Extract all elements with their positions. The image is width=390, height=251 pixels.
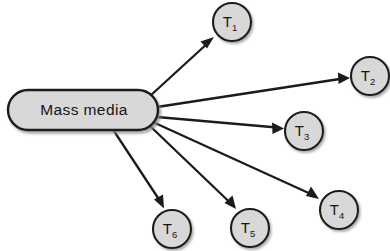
t2-label-base: T [361,67,370,84]
diagram-canvas: Mass media T1 T2 T3 T4 T5 [0,0,390,251]
target-node-group: T1 T2 T3 T4 T5 T6 [153,3,389,248]
edge-line-t6 [112,128,161,203]
arrowhead-t2 [338,73,350,85]
edge-line-t5 [150,126,232,204]
node-t6[interactable]: T6 [153,210,191,248]
node-t5[interactable]: T5 [231,209,269,247]
t1-label-subscript: 1 [232,22,237,33]
edge-mass-media-to-t2 [157,73,350,108]
t6-label-base: T [163,220,172,237]
edge-line-t1 [150,42,209,96]
mass-media-label: Mass media [40,101,128,118]
node-t3[interactable]: T3 [285,112,323,150]
edge-mass-media-to-t1 [150,37,214,96]
node-t4[interactable]: T4 [320,191,358,229]
t3-label-base: T [295,122,304,139]
node-t2[interactable]: T2 [351,57,389,95]
arrowhead-t4 [306,187,319,200]
node-mass-media[interactable]: Mass media [8,90,158,130]
node-t1[interactable]: T1 [213,3,251,41]
t1-label-base: T [223,13,232,30]
t4-label-base: T [330,201,339,218]
arrowhead-t3 [272,123,284,135]
arrowhead-t6 [154,195,164,209]
t2-label-subscript: 2 [370,76,375,87]
t4-label-subscript: 4 [339,210,344,221]
t5-label-subscript: 5 [250,228,255,239]
t5-label-base: T [241,219,250,236]
edge-line-t2 [157,79,343,108]
mass-media-diagram: Mass media T1 T2 T3 T4 T5 [0,0,390,251]
t3-label-subscript: 3 [304,131,309,142]
t6-label-subscript: 6 [172,229,177,240]
edge-line-t3 [157,117,277,128]
edge-mass-media-to-t6 [112,128,164,209]
